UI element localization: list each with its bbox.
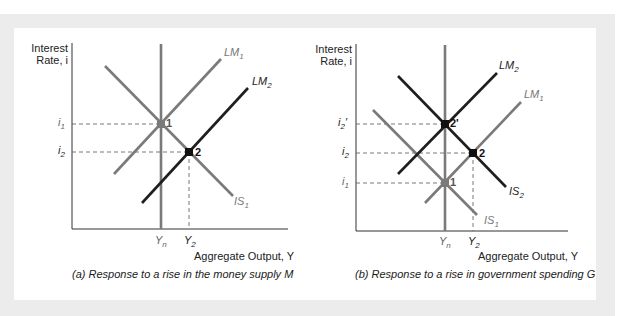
panel-a-point-1-label: 1 bbox=[166, 117, 172, 129]
panel-a-y-axis-title-line1: Interest bbox=[28, 42, 68, 54]
panel-a-tick-i1: i1 bbox=[58, 116, 65, 131]
panel-b-point-1 bbox=[441, 179, 449, 187]
panel-b-point-2prime bbox=[441, 120, 449, 128]
panel-b-y-axis-title: Interest Rate, i bbox=[312, 43, 352, 67]
panel-a-is1-curve bbox=[105, 66, 233, 196]
panel-b-point-2 bbox=[469, 149, 477, 157]
panel-a-point-2 bbox=[185, 148, 193, 156]
panel-a-label-lm2: LM2 bbox=[252, 75, 272, 90]
panel-a-chart bbox=[72, 43, 288, 229]
panel-b-point-2prime-label: 2' bbox=[450, 117, 459, 129]
panel-b-label-lm1: LM1 bbox=[524, 88, 544, 103]
panel-b-chart bbox=[356, 44, 568, 231]
panel-a-y-axis-title: Interest Rate, i bbox=[28, 42, 68, 66]
panel-a-y-axis-title-line2: Rate, i bbox=[28, 54, 68, 66]
panel-b-tick-y2: Y2 bbox=[468, 235, 480, 250]
panel-b-y-axis-title-line2: Rate, i bbox=[312, 55, 352, 67]
panel-b-tick-yn: Yn bbox=[439, 235, 451, 250]
panel-a-point-1 bbox=[157, 120, 165, 128]
panel-b-point-1-label: 1 bbox=[450, 176, 456, 188]
panel-b-tick-i2prime: i2′ bbox=[338, 116, 347, 131]
panel-b-label-lm2: LM2 bbox=[499, 59, 519, 74]
panel-b-tick-i1: i1 bbox=[342, 175, 349, 190]
panel-a-tick-y2: Y2 bbox=[184, 234, 196, 249]
panel-a-tick-i2: i2 bbox=[58, 144, 65, 159]
panel-a-label-is1: IS1 bbox=[234, 195, 249, 210]
panel-a-point-2-label: 2 bbox=[195, 146, 201, 158]
panel-b-label-is2: IS2 bbox=[509, 185, 524, 200]
panel-a-tick-yn: Yn bbox=[155, 234, 167, 249]
panel-a-x-axis-title: Aggregate Output, Y bbox=[194, 250, 294, 262]
panel-b-label-is1: IS1 bbox=[484, 214, 499, 229]
panel-b-tick-i2: i2 bbox=[342, 145, 349, 160]
panel-b-is1-curve bbox=[373, 110, 477, 215]
panel-b-y-axis-title-line1: Interest bbox=[312, 43, 352, 55]
panel-a-caption: (a) Response to a rise in the money supp… bbox=[72, 268, 293, 280]
panel-b-x-axis-title: Aggregate Output, Y bbox=[478, 250, 578, 262]
panel-b-caption: (b) Response to a rise in government spe… bbox=[355, 268, 595, 280]
panel-b-is2-curve bbox=[398, 76, 506, 187]
panel-a-label-lm1: LM1 bbox=[224, 46, 244, 61]
panel-b-point-2-label: 2 bbox=[479, 147, 485, 159]
